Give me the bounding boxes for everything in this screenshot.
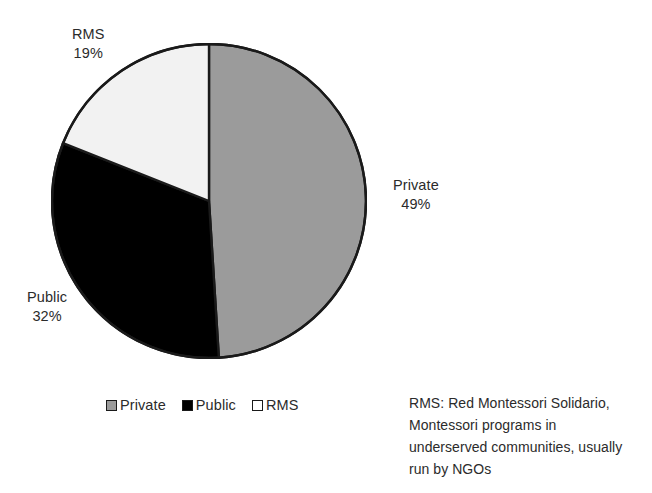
chart-legend: Private Public RMS [106,397,298,413]
slice-label-private-percent: 49% [393,195,439,214]
slice-label-private-name: Private [393,176,439,195]
pie-svg [51,43,367,359]
legend-item-rms[interactable]: RMS [252,397,299,413]
caption-line-3: underserved communities, usually [409,436,634,458]
pie-chart-figure: RMS 19% Private 49% Public 32% Private P… [0,0,652,493]
legend-item-private[interactable]: Private [106,397,166,413]
slice-label-public: Public 32% [27,288,67,326]
caption-line-2: Montessori programs in [409,414,634,436]
slice-label-private: Private 49% [393,176,439,214]
legend-swatch-gray-icon [106,400,117,411]
slice-label-rms-name: RMS [72,25,105,44]
legend-swatch-white-icon [252,400,263,411]
slice-label-public-percent: 32% [27,307,67,326]
slice-label-public-name: Public [27,288,67,307]
slice-label-rms-percent: 19% [72,44,105,63]
caption-line-4: run by NGOs [409,458,634,480]
pie-chart-graphic [51,43,367,359]
legend-label-private: Private [120,397,166,413]
caption-line-1: RMS: Red Montessori Solidario, [409,392,634,414]
legend-item-public[interactable]: Public [182,397,236,413]
legend-swatch-black-icon [182,400,193,411]
chart-caption: RMS: Red Montessori Solidario, Montessor… [409,392,634,480]
legend-label-rms: RMS [266,397,299,413]
pie-slice-private[interactable] [209,44,366,358]
legend-label-public: Public [196,397,236,413]
slice-label-rms: RMS 19% [72,25,105,63]
